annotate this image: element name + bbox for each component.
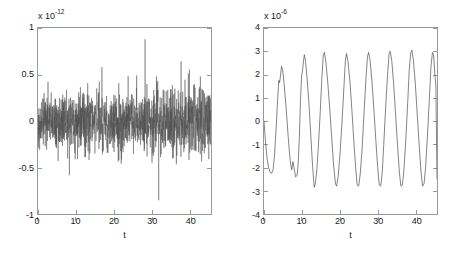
x-tick-label: 10: [63, 217, 87, 226]
y-tick-label: -3: [228, 187, 260, 196]
y-axis-exponent-prefix-left: x 10: [38, 11, 55, 21]
x-tick-label: 10: [289, 217, 313, 226]
y-tick-label: 0: [228, 117, 260, 126]
y-tick-label: 4: [228, 23, 260, 32]
x-axis-ticks-left: 0 10 20 30 40: [37, 217, 212, 231]
y-tick-label: 1: [2, 23, 34, 32]
x-tick-label: 40: [405, 217, 429, 226]
x-tick-label: 40: [179, 217, 203, 226]
y-tick-label: -2: [228, 164, 260, 173]
x-tick-label: 0: [251, 217, 275, 226]
x-axis-ticks-right: 0 10 20 30 40: [263, 217, 438, 231]
y-tick-label: -0.5: [2, 164, 34, 173]
noise-trace-plot: [38, 28, 211, 214]
x-axis-label-left: t: [37, 231, 212, 240]
y-tick-label: -1: [228, 140, 260, 149]
x-axis-label-right: t: [263, 231, 438, 240]
axes-frame-right: [263, 27, 438, 215]
y-axis-exponent-prefix-right: x 10: [264, 11, 281, 21]
plot-panel-right: x 10-6 4 3 2 1 0 -1 -2 -3 -4: [226, 0, 452, 258]
y-axis-exponent-right: x 10-6: [264, 10, 287, 21]
x-tick-label: 0: [25, 217, 49, 226]
y-axis-exponent-value-left: -12: [55, 8, 64, 15]
x-tick-label: 20: [328, 217, 352, 226]
x-tick-label: 20: [102, 217, 126, 226]
plot-panel-left: x 10-12 1 0.5 0 -0.5 -1: [0, 0, 226, 258]
axes-frame-left: [37, 27, 212, 215]
y-tick-label: 1: [228, 93, 260, 102]
y-tick-label: 2: [228, 70, 260, 79]
oscillation-trace-plot: [264, 28, 437, 214]
y-axis-exponent-left: x 10-12: [38, 10, 64, 21]
y-axis-ticks-right: 4 3 2 1 0 -1 -2 -3 -4: [226, 27, 260, 215]
x-tick-label: 30: [140, 217, 164, 226]
y-tick-label: 0.5: [2, 70, 34, 79]
y-tick-label: 0: [2, 117, 34, 126]
y-tick-label: 3: [228, 46, 260, 55]
x-tick-label: 30: [366, 217, 390, 226]
figure-canvas: x 10-12 1 0.5 0 -0.5 -1: [0, 0, 452, 258]
y-axis-ticks-left: 1 0.5 0 -0.5 -1: [0, 27, 34, 215]
y-axis-exponent-value-right: -6: [281, 8, 287, 15]
